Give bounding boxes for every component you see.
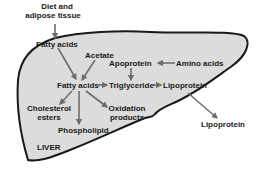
node-fatty-acids-center: Fatty acids: [57, 81, 99, 90]
node-lipoprotein-exported: Lipoprotein: [201, 120, 245, 129]
cholesterol-line1: Cholesterol: [25, 104, 73, 113]
organ-label: LIVER: [37, 143, 61, 152]
node-cholesterol-esters: Cholesterol esters: [25, 104, 73, 122]
node-phospholipid: Phospholipid: [58, 126, 109, 135]
node-lipoprotein-inner: Lipoprotein: [163, 81, 207, 90]
node-oxidation-products: Oxidation products: [106, 104, 148, 122]
node-triglyceride: Triglyceride: [109, 81, 154, 90]
arrow-lipoprotein-export: [188, 93, 217, 118]
node-amino-acids: Amino acids: [176, 59, 224, 68]
cholesterol-line2: esters: [25, 113, 73, 122]
liver-outline: [18, 31, 248, 160]
diet-line1: Diet and: [32, 2, 82, 11]
node-apoprotein: Apoprotein: [109, 59, 152, 68]
oxidation-line1: Oxidation: [106, 104, 148, 113]
node-diet: Diet and adipose tissue: [32, 2, 82, 20]
node-fatty-acids-input: Fatty acids: [36, 40, 78, 49]
oxidation-line2: products: [106, 113, 148, 122]
diet-line2: adipose tissue: [24, 11, 82, 20]
